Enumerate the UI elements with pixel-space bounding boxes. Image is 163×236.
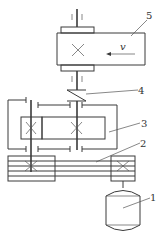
label-5: 5 [146, 10, 152, 21]
label-4: 4 [138, 85, 144, 96]
motor [106, 181, 150, 231]
label-1: 1 [150, 192, 156, 203]
conveyor-drum: v [57, 9, 145, 90]
velocity-label: v [120, 41, 126, 52]
bearing-cross-icon [72, 44, 84, 56]
belt-drive [8, 143, 140, 181]
label-2: 2 [140, 138, 146, 149]
velocity-arrow-icon [106, 52, 135, 56]
gear-cross-icon [26, 122, 82, 134]
label-3: 3 [141, 118, 147, 129]
coupling [67, 90, 138, 101]
transmission-diagram: v [0, 0, 163, 236]
